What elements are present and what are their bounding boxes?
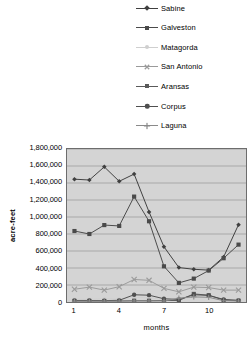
x-tick-label: 10 bbox=[205, 306, 213, 315]
y-tick-label: 200,000 bbox=[6, 282, 62, 290]
legend-label: Galveston bbox=[158, 23, 196, 32]
y-tick-label: 800,000 bbox=[6, 230, 62, 238]
y-tick-label: 1,200,000 bbox=[6, 196, 62, 204]
legend-item-matagorda[interactable]: Matagorda bbox=[136, 41, 198, 53]
legend-item-san-antonio[interactable]: San Antonio bbox=[136, 61, 203, 73]
series-canvas bbox=[67, 149, 246, 302]
legend-item-laguna[interactable]: Laguna bbox=[136, 120, 187, 132]
y-tick-label: 600,000 bbox=[6, 247, 62, 255]
x-tick-label: 7 bbox=[162, 306, 166, 315]
legend-label: Sabine bbox=[158, 4, 185, 13]
y-tick-label: 0 bbox=[6, 299, 62, 307]
legend-label: Laguna bbox=[158, 121, 187, 130]
y-tick-label: 1,000,000 bbox=[6, 213, 62, 221]
plot-area bbox=[66, 148, 247, 303]
legend-label: San Antonio bbox=[158, 62, 203, 71]
legend-marker-x-icon bbox=[136, 61, 158, 72]
legend-label: Aransas bbox=[158, 82, 189, 91]
chart-legend: SabineGalvestonMatagordaSan AntonioArans… bbox=[136, 2, 252, 142]
x-tick-label: 4 bbox=[117, 306, 121, 315]
legend-marker-square-icon bbox=[136, 22, 158, 33]
legend-marker-plus-icon bbox=[136, 120, 158, 131]
legend-marker-circle-icon bbox=[136, 101, 158, 112]
line-chart: SabineGalvestonMatagordaSan AntonioArans… bbox=[0, 0, 252, 343]
legend-label: Corpus bbox=[158, 102, 186, 111]
x-tick-label: 1 bbox=[71, 306, 75, 315]
legend-marker-dot-icon bbox=[136, 42, 158, 53]
y-tick-label: 1,600,000 bbox=[6, 161, 62, 169]
legend-item-aransas[interactable]: Aransas bbox=[136, 80, 189, 92]
x-axis-label: months bbox=[66, 323, 247, 332]
y-tick-label: 400,000 bbox=[6, 265, 62, 273]
y-tick-label: 1,800,000 bbox=[6, 144, 62, 152]
y-axis-ticks: 1,800,0001,600,0001,400,0001,200,0001,00… bbox=[4, 143, 62, 303]
y-tick-label: 1,400,000 bbox=[6, 178, 62, 186]
legend-item-corpus[interactable]: Corpus bbox=[136, 100, 186, 112]
legend-item-galveston[interactable]: Galveston bbox=[136, 22, 196, 34]
legend-marker-diamond-icon bbox=[136, 3, 158, 14]
plot-wrapper: acre-feet 1,800,0001,600,0001,400,0001,2… bbox=[0, 143, 252, 343]
legend-item-sabine[interactable]: Sabine bbox=[136, 2, 185, 14]
legend-marker-square-icon bbox=[136, 81, 158, 92]
legend-label: Matagorda bbox=[158, 43, 198, 52]
